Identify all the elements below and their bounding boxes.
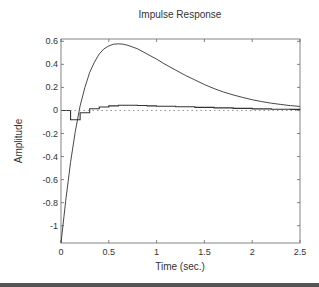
y-tick-label: -0.6 <box>42 175 58 185</box>
x-tick-label: 0 <box>58 247 63 257</box>
y-tick-label: 0.4 <box>45 59 58 69</box>
bottom-divider <box>0 283 319 287</box>
y-tick-label: 0.6 <box>45 36 58 46</box>
x-tick-label: 1 <box>154 247 159 257</box>
y-tick-label: -0.2 <box>42 129 58 139</box>
y-axis-label: Amplitude <box>13 118 24 163</box>
y-tick-label: -0.4 <box>42 152 58 162</box>
x-tick-label: 1.5 <box>198 247 211 257</box>
y-tick-label: -1 <box>50 221 58 231</box>
y-tick-label: 0.2 <box>45 82 58 92</box>
plot-area <box>61 39 300 243</box>
x-tick-label: 2.5 <box>294 247 307 257</box>
x-tick-label: 2 <box>250 247 255 257</box>
x-tick-label: 0.5 <box>103 247 116 257</box>
x-axis-label: Time (sec.) <box>155 261 205 272</box>
chart-title: Impulse Response <box>139 9 222 20</box>
y-tick-label: 0 <box>53 105 58 115</box>
y-tick-label: -0.8 <box>42 198 58 208</box>
impulse-response-chart: Impulse Response 0.60.40.20-0.2-0.4-0.6-… <box>0 0 319 287</box>
